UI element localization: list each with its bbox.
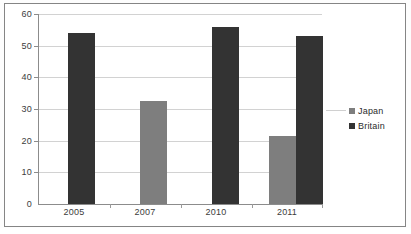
chart-screenshot: 60 50 40 30 20 10 0: [0, 0, 411, 234]
bar-2011-japan[interactable]: [269, 136, 296, 204]
legend-swatch-britain-icon: [349, 123, 355, 129]
x-axis-label-2010: 2010: [196, 207, 236, 217]
page-edge: [0, 228, 411, 234]
y-axis-label-50: 50: [22, 42, 32, 51]
y-axis-labels: 60 50 40 30 20 10 0: [8, 14, 32, 204]
y-axis-label-40: 40: [22, 73, 32, 82]
y-axis-label-60: 60: [22, 10, 32, 19]
legend-leader-line: [326, 110, 346, 111]
x-axis-labels: 2005 2007 2010 2011: [38, 207, 322, 221]
y-axis-label-20: 20: [22, 137, 32, 146]
bar-2007-japan[interactable]: [140, 101, 167, 204]
x-axis-label-2011: 2011: [267, 207, 307, 217]
bar-chart: 60 50 40 30 20 10 0: [0, 0, 411, 234]
chart-legend: Japan Britain: [349, 103, 405, 133]
y-axis-label-10: 10: [22, 168, 32, 177]
legend-item-japan[interactable]: Japan: [349, 103, 405, 118]
legend-label-japan: Japan: [358, 106, 384, 116]
legend-label-britain: Britain: [358, 121, 385, 131]
legend-swatch-japan-icon: [349, 108, 355, 114]
x-axis-label-2005: 2005: [54, 207, 94, 217]
x-axis-label-2007: 2007: [125, 207, 165, 217]
bar-2005-britain[interactable]: [68, 33, 95, 204]
bars-layer: [38, 14, 322, 204]
bar-2011-britain[interactable]: [296, 36, 323, 204]
bar-2010-britain[interactable]: [212, 27, 239, 204]
legend-item-britain[interactable]: Britain: [349, 118, 405, 133]
x-axis-tick-4: [322, 204, 323, 208]
y-axis-label-0: 0: [27, 200, 32, 209]
y-axis-label-30: 30: [22, 105, 32, 114]
